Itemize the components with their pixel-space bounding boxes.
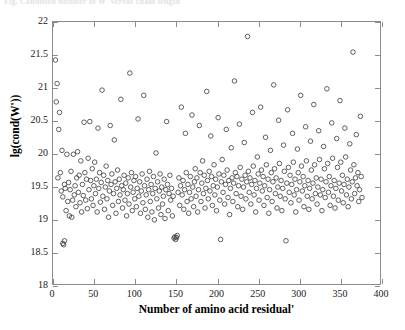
x-tick-label: 300 (279, 289, 319, 299)
data-point (239, 194, 244, 199)
data-point (231, 199, 236, 204)
data-point (68, 187, 73, 192)
data-point (152, 218, 157, 223)
data-point (221, 190, 226, 195)
data-point (96, 126, 101, 131)
data-point (218, 237, 223, 242)
x-tick-mark (341, 22, 342, 27)
data-point (359, 174, 364, 179)
data-point (220, 157, 225, 162)
data-point (92, 160, 97, 165)
y-tick-mark (53, 220, 58, 221)
data-point (240, 177, 245, 182)
data-point (285, 181, 290, 186)
data-point (202, 173, 207, 178)
data-point (180, 193, 185, 198)
data-point (290, 131, 295, 136)
data-point (344, 193, 349, 198)
y-tick-label: 18.5 (8, 247, 48, 257)
data-point (191, 204, 196, 209)
data-point (143, 207, 148, 212)
data-point (335, 165, 340, 170)
data-point (266, 177, 271, 182)
data-point (321, 144, 326, 149)
data-point (331, 194, 336, 199)
data-point (92, 183, 97, 188)
y-tick-mark (375, 286, 380, 287)
data-point (278, 194, 283, 199)
data-point (186, 182, 191, 187)
x-tick-mark (341, 279, 342, 284)
scatter-points-layer (53, 22, 380, 284)
x-tick-mark (94, 22, 95, 27)
data-point (297, 198, 302, 203)
scatter-series-proteins (53, 34, 364, 247)
data-point (302, 204, 307, 209)
data-point (69, 169, 74, 174)
y-tick-label: 22 (8, 16, 48, 26)
data-point (261, 174, 266, 179)
data-point (319, 177, 324, 182)
data-point (265, 195, 270, 200)
data-point (338, 160, 343, 165)
data-point (260, 189, 265, 194)
data-point (112, 138, 117, 143)
x-tick-mark (259, 22, 260, 27)
data-point (100, 88, 105, 93)
data-point (126, 176, 131, 181)
data-point (251, 164, 256, 169)
data-point (130, 208, 135, 213)
data-point (310, 197, 315, 202)
data-point (360, 195, 365, 200)
data-point (177, 203, 182, 208)
data-point (137, 194, 142, 199)
data-point (86, 156, 91, 161)
data-point (293, 177, 298, 182)
data-point (247, 190, 252, 195)
data-point (121, 187, 126, 192)
data-point (334, 186, 339, 191)
data-point (271, 83, 276, 88)
data-point (258, 181, 263, 186)
data-point (195, 210, 200, 215)
y-tick-mark (53, 187, 58, 188)
data-point (284, 238, 289, 243)
data-point (179, 105, 184, 110)
data-point (208, 189, 213, 194)
data-point (194, 194, 199, 199)
data-point (134, 204, 139, 209)
x-tick-mark (94, 279, 95, 284)
data-point (178, 183, 183, 188)
x-tick-label: 400 (361, 289, 401, 299)
x-tick-mark (300, 22, 301, 27)
data-point (353, 176, 358, 181)
data-point (356, 170, 361, 175)
data-point (288, 173, 293, 178)
data-point (93, 191, 98, 196)
data-point (317, 157, 322, 162)
data-point (129, 170, 134, 175)
data-point (158, 172, 163, 177)
data-point (85, 206, 90, 211)
data-point (311, 181, 316, 186)
data-point (231, 181, 236, 186)
data-point (267, 211, 272, 216)
data-point (138, 211, 143, 216)
data-point (160, 202, 165, 207)
data-point (76, 190, 81, 195)
data-point (183, 131, 188, 136)
data-point (296, 170, 301, 175)
data-point (245, 34, 250, 39)
data-point (99, 180, 104, 185)
data-point (70, 198, 75, 203)
data-point (316, 185, 321, 190)
data-point (347, 185, 352, 190)
y-tick-label: 19 (8, 214, 48, 224)
data-point (232, 79, 237, 84)
data-point (128, 71, 133, 76)
y-tick-mark (53, 55, 58, 56)
data-point (182, 187, 187, 192)
data-point (207, 169, 212, 174)
data-point (320, 187, 325, 192)
data-point (117, 177, 122, 182)
